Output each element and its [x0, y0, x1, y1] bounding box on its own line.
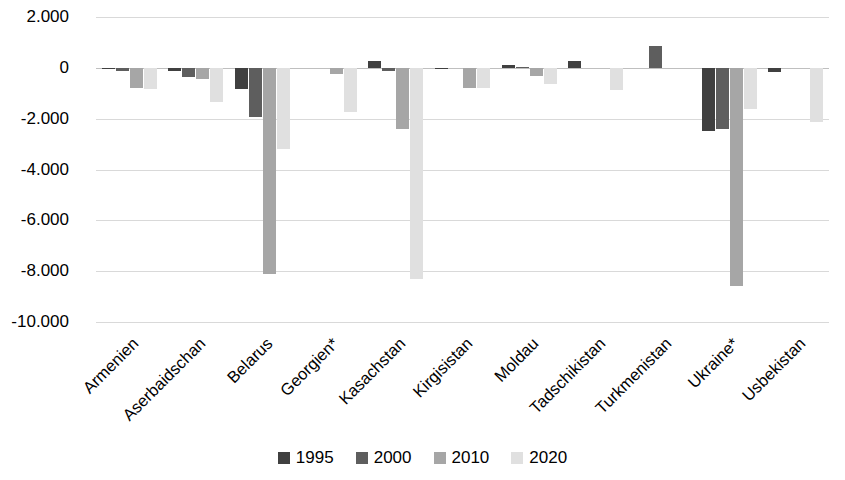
legend-swatch-icon: [511, 452, 523, 464]
bar-slot: [396, 17, 409, 322]
bar: [277, 68, 290, 149]
bar: [649, 46, 662, 68]
bar: [516, 67, 529, 68]
bar-slot: [730, 17, 743, 322]
bar: [702, 68, 715, 132]
y-axis-tick-label: -2.000: [0, 110, 69, 127]
plot-area: 2.0000-2.000-4.000-6.000-8.000-10.000: [96, 17, 829, 322]
bar-group: [562, 17, 629, 322]
bar-slot: [382, 17, 395, 322]
bar-slot: [463, 17, 476, 322]
bar-slot: [210, 17, 223, 322]
bar: [344, 68, 357, 112]
bar: [410, 68, 423, 279]
bar-slot: [116, 17, 129, 322]
y-axis-tick-label: 0: [0, 59, 69, 76]
bar-slot: [702, 17, 715, 322]
bar: [168, 68, 181, 71]
bar: [263, 68, 276, 274]
bar-slot: [102, 17, 115, 322]
bar-slot: [568, 17, 581, 322]
bar-group: [496, 17, 563, 322]
gridline: [96, 322, 829, 323]
legend-item[interactable]: 2020: [511, 449, 567, 466]
y-axis-tick-label: -4.000: [0, 161, 69, 178]
bar-group: [96, 17, 163, 322]
legend-swatch-icon: [356, 452, 368, 464]
bar: [144, 68, 157, 89]
bar-slot: [235, 17, 248, 322]
bar-slot: [277, 17, 290, 322]
bar: [182, 68, 195, 77]
bar-slot: [130, 17, 143, 322]
bar-chart: 2.0000-2.000-4.000-6.000-8.000-10.000 Ar…: [0, 0, 845, 480]
bar: [210, 68, 223, 102]
bar-slot: [330, 17, 343, 322]
bar-slot: [144, 17, 157, 322]
bar-slot: [716, 17, 729, 322]
legend-label: 2020: [529, 449, 567, 466]
bar: [477, 68, 490, 88]
bar-slot: [410, 17, 423, 322]
bar-slot: [502, 17, 515, 322]
bar-slot: [530, 17, 543, 322]
bar: [435, 68, 448, 70]
bar: [463, 68, 476, 88]
bar: [382, 68, 395, 71]
bar-slot: [544, 17, 557, 322]
bar: [330, 68, 343, 75]
bar-slot: [249, 17, 262, 322]
legend-label: 2000: [374, 449, 412, 466]
bar-slot: [182, 17, 195, 322]
bar-slot: [744, 17, 757, 322]
bar-slot: [649, 17, 662, 322]
y-axis-tick-label: -6.000: [0, 211, 69, 228]
legend-label: 2010: [452, 449, 490, 466]
bar-group: [229, 17, 296, 322]
bar-group: [762, 17, 829, 322]
bar: [235, 68, 248, 90]
bar-slot: [582, 17, 595, 322]
bar: [744, 68, 757, 109]
bar-slot: [796, 17, 809, 322]
bar-group: [629, 17, 696, 322]
bar-slot: [344, 17, 357, 322]
bar-slot: [196, 17, 209, 322]
y-axis-tick-label: -8.000: [0, 262, 69, 279]
bar-slot: [168, 17, 181, 322]
bar-slot: [435, 17, 448, 322]
bar: [116, 68, 129, 71]
bar-slot: [768, 17, 781, 322]
legend-label: 1995: [296, 449, 334, 466]
bar: [249, 68, 262, 118]
bar: [502, 65, 515, 68]
bar: [130, 68, 143, 88]
bar-group: [363, 17, 430, 322]
bar: [196, 68, 209, 79]
legend-item[interactable]: 2000: [356, 449, 412, 466]
bar-group: [296, 17, 363, 322]
bar-slot: [610, 17, 623, 322]
bar-slot: [516, 17, 529, 322]
bar: [716, 68, 729, 129]
bar: [396, 68, 409, 130]
bar-slot: [596, 17, 609, 322]
bar-slot: [316, 17, 329, 322]
bar-slot: [635, 17, 648, 322]
y-axis-tick-label: -10.000: [0, 313, 69, 330]
bar: [530, 68, 543, 76]
bar-slot: [782, 17, 795, 322]
bar-group: [429, 17, 496, 322]
bar-slot: [263, 17, 276, 322]
bar-group: [696, 17, 763, 322]
bar: [368, 61, 381, 68]
bar: [768, 68, 781, 73]
bar: [102, 68, 115, 70]
legend-item[interactable]: 2010: [434, 449, 490, 466]
bar: [568, 61, 581, 67]
bar: [544, 68, 557, 85]
legend-item[interactable]: 1995: [278, 449, 334, 466]
chart-legend: 1995200020102020: [0, 449, 845, 466]
bar-slot: [663, 17, 676, 322]
bar: [810, 68, 823, 123]
